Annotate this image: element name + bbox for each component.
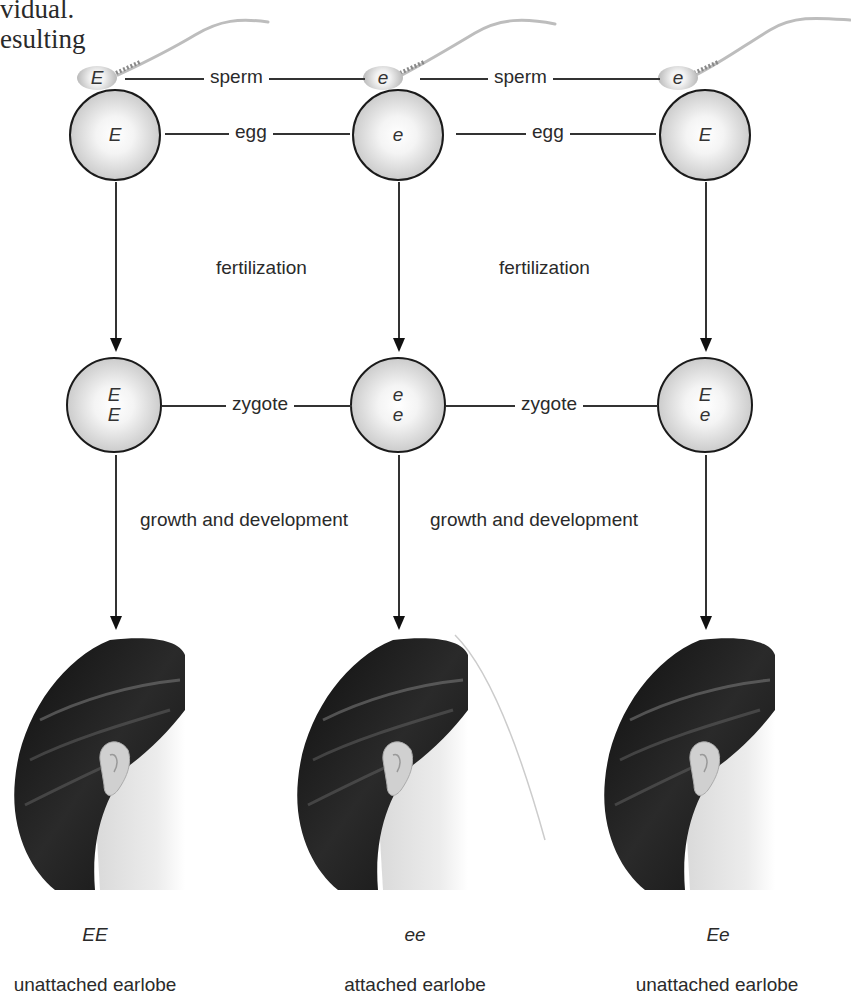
sperm-head-3: e	[658, 66, 698, 90]
fertilization-arrow-line-2	[398, 182, 400, 340]
zygote-allele: e	[393, 405, 404, 425]
zygote-allele: e	[393, 385, 404, 405]
sperm-label-2: sperm	[488, 66, 553, 88]
fertilization-label-1: fertilization	[210, 257, 313, 279]
sperm-allele: e	[673, 67, 684, 89]
down-arrow-icon	[393, 338, 405, 352]
sperm-allele: e	[378, 67, 389, 89]
zygote-cell-1: E E	[66, 357, 162, 453]
genotype-label-2: ee	[375, 924, 455, 946]
egg-cell-3: E	[659, 89, 751, 181]
head-1	[14, 638, 185, 890]
head-illustrations	[0, 630, 851, 900]
head-2	[297, 638, 468, 890]
zygote-label-2: zygote	[515, 393, 583, 415]
sperm-label-1: sperm	[204, 66, 269, 88]
egg-cell-1: E	[69, 89, 161, 181]
growth-label-1: growth and development	[134, 509, 354, 531]
zygote-allele: E	[699, 385, 712, 405]
zygote-cell-2: e e	[350, 357, 446, 453]
phenotype-label-2: attached earlobe	[320, 974, 510, 995]
egg-cell-2: e	[352, 89, 444, 181]
zygote-label-1: zygote	[226, 393, 294, 415]
sperm-head-2: e	[363, 66, 403, 90]
growth-arrow-line-2	[398, 455, 400, 618]
growth-arrow-line-1	[115, 455, 117, 618]
growth-arrow-line-3	[705, 455, 707, 618]
down-arrow-icon	[393, 616, 405, 630]
egg-label-2: egg	[526, 121, 570, 143]
down-arrow-icon	[700, 338, 712, 352]
sperm-head-1: E	[77, 66, 117, 90]
egg-allele: E	[109, 124, 122, 146]
egg-allele: E	[699, 124, 712, 146]
down-arrow-icon	[110, 616, 122, 630]
phenotype-label-1: unattached earlobe	[0, 974, 190, 995]
egg-allele: e	[393, 124, 404, 146]
head-3	[604, 638, 775, 890]
fertilization-label-2: fertilization	[493, 257, 596, 279]
sperm-allele: E	[91, 67, 104, 89]
phenotype-label-3: unattached earlobe	[622, 974, 812, 995]
zygote-allele: E	[108, 405, 121, 425]
zygote-cell-3: E e	[657, 357, 753, 453]
genotype-label-1: EE	[55, 924, 135, 946]
fertilization-arrow-line-3	[705, 182, 707, 340]
fertilization-arrow-line-1	[115, 182, 117, 340]
down-arrow-icon	[110, 338, 122, 352]
down-arrow-icon	[700, 616, 712, 630]
growth-label-2: growth and development	[424, 509, 644, 531]
genotype-label-3: Ee	[678, 924, 758, 946]
zygote-allele: E	[108, 385, 121, 405]
zygote-allele: e	[700, 405, 711, 425]
egg-label-1: egg	[229, 121, 273, 143]
